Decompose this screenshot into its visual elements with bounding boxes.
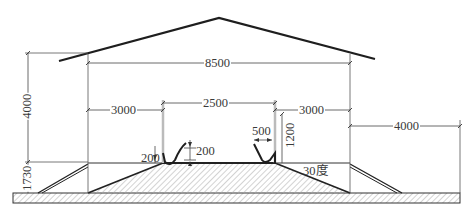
section-drawing: 8500 3000 2500 3000 4000 4000 1730 200 2… [0, 0, 476, 217]
right-ramp [350, 164, 402, 193]
slope-angle-label: 30度 [302, 165, 330, 178]
roof [59, 18, 375, 61]
dim-embankment-height: 1730 [21, 165, 34, 192]
dimension-ticks [26, 51, 462, 164]
right-gutter [254, 144, 275, 163]
dim-gutter-left-depth: 200 [140, 152, 161, 165]
ground-base [13, 193, 460, 203]
dim-center-span: 2500 [202, 97, 229, 110]
dim-right-span: 3000 [298, 104, 325, 117]
dim-left-span: 3000 [110, 104, 137, 117]
drawing-svg [0, 0, 476, 217]
left-ramp [38, 164, 88, 193]
dim-gutter-right-depth: 200 [195, 145, 216, 158]
dim-gutter-width: 500 [251, 125, 272, 138]
dim-total-width: 8500 [204, 57, 231, 70]
left-gutter [163, 143, 186, 164]
dim-wall-height: 4000 [21, 93, 34, 120]
dim-post-height: 1200 [284, 122, 297, 149]
dim-outer-right: 4000 [393, 120, 420, 133]
